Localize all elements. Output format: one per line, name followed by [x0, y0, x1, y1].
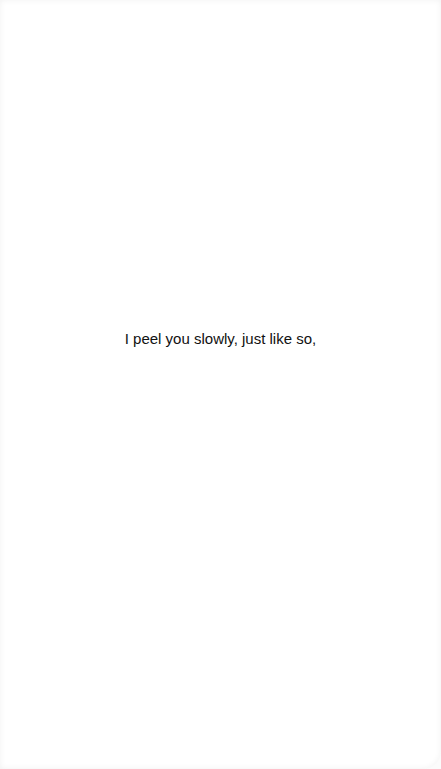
poem-line: I peel you slowly, just like so, [0, 330, 441, 347]
page-canvas: I peel you slowly, just like so, [0, 0, 441, 769]
